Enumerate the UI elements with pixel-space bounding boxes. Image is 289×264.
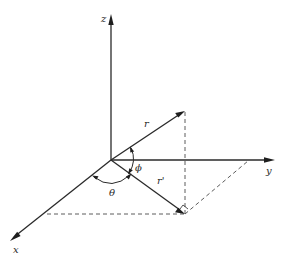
vector-r-prime-label: r': [157, 175, 165, 186]
projection-to-y-axis: [185, 161, 248, 214]
vector-r-prime: [111, 160, 185, 214]
phi-label: ϕ: [135, 162, 142, 173]
z-axis-label: z: [100, 13, 107, 24]
theta-arc: [92, 174, 132, 184]
y-axis-label: y: [265, 165, 272, 176]
right-angle-marker: [180, 205, 188, 209]
vector-r-label: r: [144, 118, 150, 129]
phi-arc-arrowhead-r: [130, 147, 134, 153]
z-axis-arrowhead: [108, 14, 113, 25]
theta-label: θ: [109, 187, 115, 198]
z-axis: [108, 14, 113, 160]
y-axis-arrowhead: [264, 157, 275, 162]
theta-arc-arrowhead-rprime: [126, 174, 132, 180]
x-axis: [10, 160, 111, 241]
spherical-coordinates-diagram: z y x r r' θ ϕ: [0, 0, 289, 264]
x-axis-label: x: [13, 244, 19, 255]
